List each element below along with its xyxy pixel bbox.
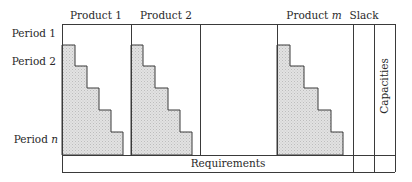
capacities-label: Capacities [378, 58, 390, 114]
row-label-period-2: Period 2 [12, 55, 56, 67]
staircase-matrix-diagram: Product 1 Product 2 Product m Slack Peri… [0, 0, 412, 182]
requirements-label: Requirements [191, 157, 266, 169]
row-label-period-n: Period n [14, 133, 59, 145]
staircase-block-product-2 [131, 45, 192, 155]
staircase-block-product-m [277, 45, 343, 155]
column-header-product-1: Product 1 [70, 9, 122, 21]
column-header-product-m: Product m [286, 9, 341, 21]
column-header-slack: Slack [349, 9, 379, 21]
staircase-block-product-1 [62, 45, 123, 155]
row-label-period-1: Period 1 [12, 27, 56, 39]
column-header-product-2: Product 2 [140, 9, 192, 21]
